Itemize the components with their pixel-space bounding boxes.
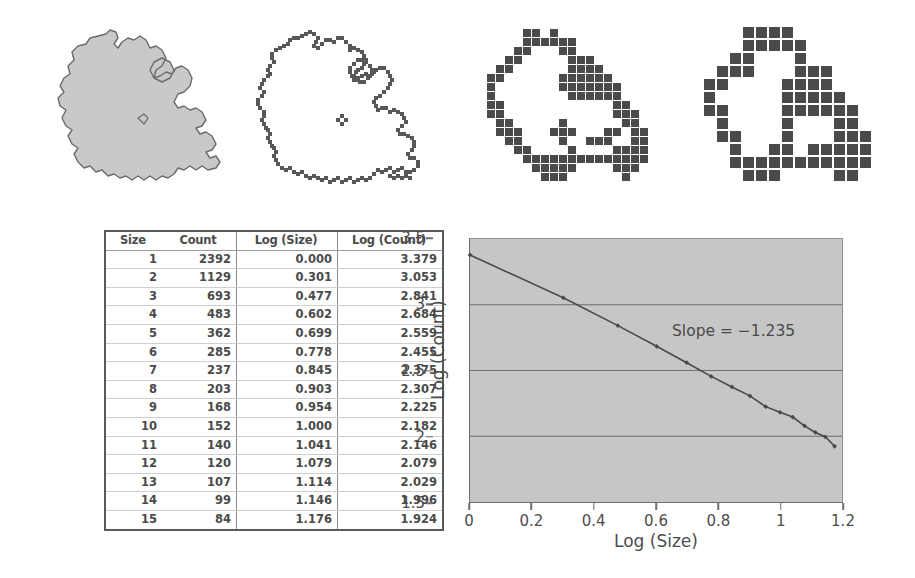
cell-log-size: 0.301 [237, 269, 338, 288]
x-tick-label: 0 [464, 512, 474, 530]
cell-size: 9 [105, 399, 162, 418]
cell-count: 107 [162, 473, 237, 492]
data-point [468, 253, 473, 258]
x-tick-label: 0.8 [706, 512, 730, 530]
cell-log-size: 1.079 [237, 455, 338, 474]
table-row: 15841.1761.924 [105, 510, 443, 529]
x-tick-label: 0.6 [644, 512, 668, 530]
table-row: 62850.7782.455 [105, 343, 443, 362]
cell-log-size: 0.602 [237, 306, 338, 325]
cell-size: 12 [105, 455, 162, 474]
cell-count: 84 [162, 510, 237, 529]
cell-size: 3 [105, 287, 162, 306]
y-tick-label: 2.5 [401, 362, 425, 380]
table-header-row: Size Count Log (Size) Log (Count) [105, 231, 443, 250]
table-row: 44830.6022.684 [105, 306, 443, 325]
box-count-fine-svg [248, 18, 448, 213]
x-tick-label: 0.4 [582, 512, 606, 530]
column-header-log-size: Log (Size) [237, 231, 338, 250]
y-tick-mark [426, 502, 433, 504]
cell-log-size: 0.903 [237, 380, 338, 399]
data-point [778, 410, 783, 415]
x-tick-mark [531, 503, 533, 510]
cell-count: 483 [162, 306, 237, 325]
y-axis-title: Log (Count) [428, 280, 448, 420]
medium-box-group [486, 28, 648, 181]
cell-log-size: 1.114 [237, 473, 338, 492]
cell-count: 203 [162, 380, 237, 399]
x-tick-label: 0.2 [519, 512, 543, 530]
y-tick-mark [426, 436, 433, 438]
x-tick-mark [842, 503, 844, 510]
table-row: 211290.3013.053 [105, 269, 443, 288]
panel-solid-island [50, 18, 250, 213]
y-tick-label: 1.5 [401, 494, 425, 512]
x-tick-mark [593, 503, 595, 510]
table-row: 123920.0003.379 [105, 250, 443, 269]
table-body: 123920.0003.379211290.3013.05336930.4772… [105, 250, 443, 529]
cell-count: 362 [162, 324, 237, 343]
cell-size: 5 [105, 324, 162, 343]
box-count-medium-svg [468, 18, 668, 213]
table-row: 121201.0792.079 [105, 455, 443, 474]
cell-log-size: 1.041 [237, 436, 338, 455]
cell-count: 99 [162, 492, 237, 511]
cell-log-size: 0.778 [237, 343, 338, 362]
table-row: 14991.1461.996 [105, 492, 443, 511]
cell-size: 2 [105, 269, 162, 288]
table-head: Size Count Log (Size) Log (Count) [105, 231, 443, 250]
y-tick-mark [426, 237, 433, 239]
x-tick-mark [780, 503, 782, 510]
fine-box-group [256, 30, 420, 184]
column-header-count: Count [162, 231, 237, 250]
table-row: 111401.0412.146 [105, 436, 443, 455]
chart-plot-svg [470, 239, 842, 502]
cell-log-size: 0.000 [237, 250, 338, 269]
cell-size: 13 [105, 473, 162, 492]
panel-box-count-medium [468, 18, 668, 213]
cell-log-size: 1.176 [237, 510, 338, 529]
table-row: 101521.0002.182 [105, 417, 443, 436]
cell-size: 10 [105, 417, 162, 436]
coarse-box-group [703, 26, 872, 182]
cell-log-size: 0.845 [237, 362, 338, 381]
box-count-data-table: Size Count Log (Size) Log (Count) 123920… [104, 230, 406, 512]
cell-count: 237 [162, 362, 237, 381]
cell-size: 11 [105, 436, 162, 455]
cell-count: 140 [162, 436, 237, 455]
cell-count: 120 [162, 455, 237, 474]
y-tick-label: 2 [415, 428, 425, 446]
cell-size: 1 [105, 250, 162, 269]
table-row: 53620.6992.559 [105, 324, 443, 343]
cell-count: 152 [162, 417, 237, 436]
cell-size: 7 [105, 362, 162, 381]
chart-plot-area [469, 238, 843, 503]
cell-size: 6 [105, 343, 162, 362]
x-tick-mark [468, 503, 470, 510]
cell-size: 4 [105, 306, 162, 325]
cell-size: 14 [105, 492, 162, 511]
cell-log-size: 1.000 [237, 417, 338, 436]
island-outline-path [58, 30, 220, 180]
x-tick-mark [718, 503, 720, 510]
solid-island-svg [50, 18, 250, 213]
cell-log-size: 0.699 [237, 324, 338, 343]
series-line [470, 255, 835, 446]
cell-size: 8 [105, 380, 162, 399]
box-count-coarse-svg [690, 18, 890, 213]
x-tick-label: 1 [776, 512, 786, 530]
x-tick-mark [655, 503, 657, 510]
table-row: 72370.8452.375 [105, 362, 443, 381]
cell-count: 285 [162, 343, 237, 362]
cell-log-size: 1.146 [237, 492, 338, 511]
cell-size: 15 [105, 510, 162, 529]
table-row: 131071.1142.029 [105, 473, 443, 492]
island-panels-row [0, 0, 915, 218]
cell-count: 2392 [162, 250, 237, 269]
log-log-chart: 1.522.533.5 00.20.40.60.811.2 Log (Size)… [412, 228, 882, 568]
table-row: 82030.9032.307 [105, 380, 443, 399]
series-marker-group [468, 253, 837, 449]
cell-count: 1129 [162, 269, 237, 288]
data-table: Size Count Log (Size) Log (Count) 123920… [104, 230, 444, 531]
table-row: 91680.9542.225 [105, 399, 443, 418]
